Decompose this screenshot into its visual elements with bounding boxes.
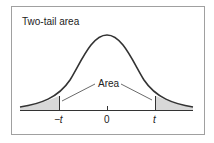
tick-zero: 0	[104, 114, 110, 125]
area-pointer-right	[121, 84, 152, 100]
area-pointer-left	[62, 84, 95, 101]
area-label: Area	[98, 78, 119, 89]
density-curve	[20, 35, 193, 107]
tick-pos-t: t	[153, 114, 156, 125]
diagram-title: Two-tail area	[22, 16, 79, 27]
tick-neg-t: −t	[54, 114, 63, 125]
